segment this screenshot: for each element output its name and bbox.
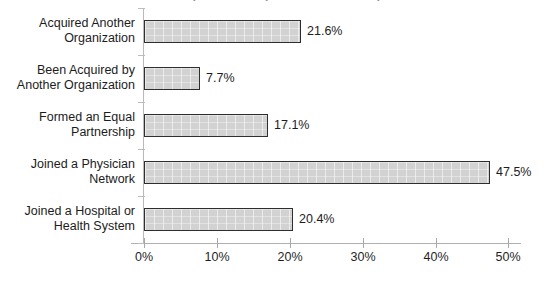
bar-row: Joined a Hospital or Health System 20.4%	[0, 196, 560, 243]
category-label: Joined a Hospital or Health System	[0, 204, 135, 234]
bar-row: Formed an Equal Partnership 17.1%	[0, 102, 560, 149]
x-axis-line	[131, 243, 521, 244]
bar-value-label: 47.5%	[490, 165, 531, 179]
x-axis-tick-label: 40%	[411, 250, 461, 264]
x-axis-tick-label: 50%	[483, 250, 533, 264]
x-axis-tick-label: 0%	[119, 250, 169, 264]
category-label-line: Formed an Equal	[0, 110, 135, 125]
category-label: Formed an Equal Partnership	[0, 110, 135, 140]
bar-wrapper: 20.4%	[144, 208, 293, 231]
x-axis-tick	[144, 238, 145, 248]
bar-wrapper: 7.7%	[144, 67, 200, 90]
category-label: Joined a Physician Network	[0, 157, 135, 187]
x-axis-tick	[217, 238, 218, 248]
category-label-line: Network	[0, 172, 135, 187]
category-label-line: Joined a Hospital or	[0, 204, 135, 219]
bar-row: Joined a Physician Network 47.5%	[0, 149, 560, 196]
category-label-line: Organization	[0, 31, 135, 46]
bar-value-label: 21.6%	[301, 24, 342, 38]
bar-wrapper: 47.5%	[144, 161, 490, 184]
bar[interactable]	[144, 67, 200, 90]
bar-row: Acquired Another Organization 21.6%	[0, 8, 560, 55]
x-axis-tick-label: 20%	[265, 250, 315, 264]
bar[interactable]	[144, 208, 293, 231]
bar-value-label: 7.7%	[200, 71, 235, 85]
bar[interactable]	[144, 20, 301, 43]
chart-title: Hospital and Physician Relationships	[130, 0, 430, 1]
category-label-line: Acquired Another	[0, 16, 135, 31]
x-axis-tick	[363, 238, 364, 248]
x-axis-tick	[508, 238, 509, 248]
bar[interactable]	[144, 161, 490, 184]
bar-wrapper: 17.1%	[144, 114, 268, 137]
bar-row: Been Acquired by Another Organization 7.…	[0, 55, 560, 102]
bar-value-label: 17.1%	[268, 118, 309, 132]
bar-value-label: 20.4%	[293, 212, 334, 226]
x-axis-tick	[436, 238, 437, 248]
category-label-line: Health System	[0, 219, 135, 234]
x-axis-tick-label: 30%	[338, 250, 388, 264]
bar-chart: Hospital and Physician Relationships Acq…	[0, 0, 560, 284]
category-label-line: Partnership	[0, 125, 135, 140]
bar-wrapper: 21.6%	[144, 20, 301, 43]
category-label: Acquired Another Organization	[0, 16, 135, 46]
x-axis-tick-label: 10%	[192, 250, 242, 264]
category-label-line: Been Acquired by	[0, 63, 135, 78]
category-label-line: Another Organization	[0, 78, 135, 93]
bar[interactable]	[144, 114, 268, 137]
category-label-line: Joined a Physician	[0, 157, 135, 172]
x-axis-tick	[290, 238, 291, 248]
category-label: Been Acquired by Another Organization	[0, 63, 135, 93]
